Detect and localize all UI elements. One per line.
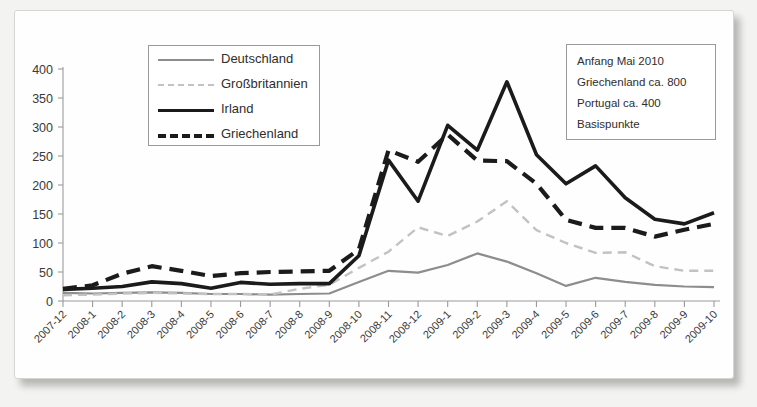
- x-axis-tick-label: 2008-8: [272, 308, 305, 341]
- y-axis-tick-label: 200: [32, 179, 53, 193]
- x-axis-tick-label: 2009-10: [682, 308, 719, 345]
- series-line-deutschland: [63, 253, 714, 294]
- legend-swatch-grossbritannien: [158, 78, 214, 90]
- legend-label-griechenland: Griechenland: [221, 126, 298, 141]
- y-axis-tick-label: 100: [32, 237, 53, 251]
- legend-item-deutschland: Deutschland: [149, 46, 319, 71]
- y-axis-tick-label: 350: [32, 92, 53, 106]
- legend-label-irland: Irland: [221, 101, 254, 116]
- x-axis-tick-label: 2009-3: [480, 308, 513, 341]
- legend-swatch-griechenland: [158, 128, 214, 140]
- legend-item-griechenland: Griechenland: [149, 121, 319, 146]
- x-axis-tick-label: 2009-1: [420, 308, 453, 341]
- y-axis-tick-label: 250: [32, 150, 53, 164]
- x-axis-tick-label: 2009-8: [628, 308, 661, 341]
- x-axis-tick-label: 2009-2: [450, 308, 483, 341]
- legend-item-grossbritannien: Großbritannien: [149, 71, 319, 96]
- scanned-page-background: 050100150200250300350400 2007-122008-120…: [0, 0, 757, 407]
- x-axis-tick-label: 2008-3: [124, 308, 157, 341]
- legend-label-deutschland: Deutschland: [221, 51, 293, 66]
- x-axis-tick-label: 2008-12: [386, 308, 423, 345]
- line-chart: 050100150200250300350400 2007-122008-120…: [0, 0, 757, 407]
- legend-swatch-irland: [158, 103, 214, 115]
- y-axis-tick-label: 400: [32, 63, 53, 77]
- x-axis-tick-label: 2009-5: [539, 308, 572, 341]
- x-axis-tick-label: 2008-6: [213, 308, 246, 341]
- legend-swatch-deutschland: [158, 53, 214, 65]
- x-axis-tick-label: 2009-6: [568, 308, 601, 341]
- y-axis: 050100150200250300350400: [32, 63, 63, 309]
- y-axis-tick-label: 150: [32, 208, 53, 222]
- x-axis-tick-label: 2008-5: [184, 308, 217, 341]
- x-axis-tick-label: 2009-4: [509, 308, 542, 341]
- x-axis-tick-label: 2008-2: [95, 308, 128, 341]
- chart-legend: Deutschland Großbritannien Irland Griech…: [148, 45, 320, 146]
- x-axis-tick-label: 2009-7: [598, 308, 631, 341]
- annotation-box: Anfang Mai 2010 Griechenland ca. 800 Por…: [566, 44, 716, 140]
- annotation-line-2: Griechenland ca. 800: [577, 72, 715, 93]
- x-axis-tick-label: 2008-10: [327, 308, 364, 345]
- legend-item-irland: Irland: [149, 96, 319, 121]
- annotation-line-1: Anfang Mai 2010: [577, 51, 715, 72]
- x-axis-tick-label: 2008-7: [243, 308, 276, 341]
- y-axis-tick-label: 300: [32, 121, 53, 135]
- x-axis-tick-label: 2008-4: [154, 308, 187, 341]
- annotation-line-4: Basispunkte: [577, 114, 715, 135]
- x-axis: 2007-122008-12008-22008-32008-42008-5200…: [31, 301, 720, 345]
- x-axis-tick-label: 2007-12: [31, 308, 68, 345]
- series-line-griechenland: [63, 135, 714, 289]
- legend-label-grossbritannien: Großbritannien: [221, 76, 308, 91]
- x-axis-tick-label: 2008-1: [65, 308, 98, 341]
- y-axis-tick-label: 50: [39, 266, 53, 280]
- y-axis-tick-label: 0: [46, 295, 53, 309]
- annotation-line-3: Portugal ca. 400: [577, 93, 715, 114]
